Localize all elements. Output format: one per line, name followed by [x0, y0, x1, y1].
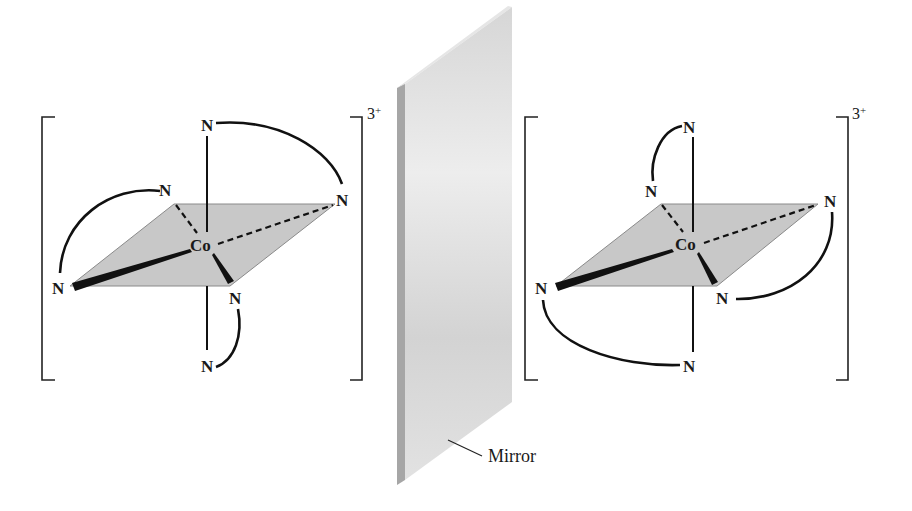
- right-bracket-open: [525, 117, 538, 380]
- left-atom-n-bottom: N: [201, 357, 214, 376]
- left-chelate-front-right: [216, 309, 239, 367]
- right-chelate-front-left: [543, 300, 680, 365]
- left-complex: 3+ N N N N N N Co: [42, 104, 381, 380]
- left-atom-n-front-right: N: [229, 289, 242, 308]
- right-bracket-close: [836, 117, 848, 380]
- left-atom-n-top: N: [201, 116, 214, 135]
- mirror-edge: [397, 83, 405, 485]
- left-atom-n-back-left: N: [159, 181, 172, 200]
- left-atom-n-front-left: N: [52, 279, 65, 298]
- mirror-image-diagram: 3+ N N N N N N Co Mirror: [0, 0, 912, 511]
- right-charge: 3+: [852, 104, 866, 122]
- right-atom-n-back-right: N: [824, 192, 837, 211]
- right-atom-n-front-right: N: [716, 289, 729, 308]
- left-atom-co: Co: [190, 236, 211, 255]
- right-atom-n-top: N: [683, 118, 696, 137]
- right-chelate-top: [652, 126, 682, 181]
- mirror: Mirror: [397, 6, 536, 485]
- left-atom-n-back-right: N: [336, 191, 349, 210]
- left-chelate-top: [216, 122, 342, 184]
- right-atom-n-bottom: N: [683, 357, 696, 376]
- left-bracket-open: [42, 117, 55, 380]
- right-atom-co: Co: [675, 235, 696, 254]
- left-bracket-close: [350, 117, 362, 380]
- right-atom-n-back-left: N: [645, 182, 658, 201]
- left-charge: 3+: [367, 104, 381, 122]
- mirror-label: Mirror: [488, 446, 536, 466]
- mirror-face: [405, 7, 512, 480]
- right-complex: 3+ N N N N N N Co: [525, 104, 866, 380]
- mirror-label-leader: [448, 440, 482, 456]
- right-atom-n-front-left: N: [535, 279, 548, 298]
